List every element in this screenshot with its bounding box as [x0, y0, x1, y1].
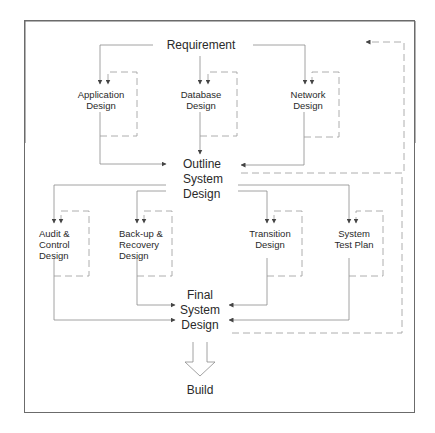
node-build: Build: [176, 383, 224, 398]
node-network-design: Network Design: [282, 89, 334, 111]
node-audit-control-design: Audit & Control Design: [39, 228, 89, 261]
frame-border-real: [25, 21, 415, 413]
node-application-design: Application Design: [68, 89, 134, 111]
node-database-design: Database Design: [170, 89, 232, 111]
node-outline-system-design: Outline System Design: [183, 157, 243, 202]
node-final-system-design: Final System Design: [174, 288, 226, 333]
build-arrow-icon: [185, 342, 215, 376]
diagram-canvas: [0, 0, 435, 433]
node-backup-recovery-design: Back-up & Recovery Design: [119, 228, 179, 261]
node-system-test-plan: System Test Plan: [326, 228, 382, 250]
node-requirement: Requirement: [154, 38, 248, 53]
node-transition-design: Transition Design: [244, 228, 296, 250]
